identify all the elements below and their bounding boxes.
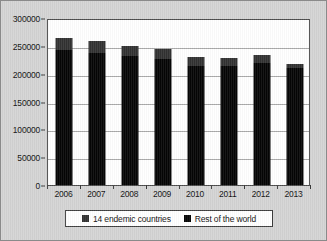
stacked-bar — [286, 64, 303, 185]
x-axis-tick-label: 2011 — [211, 189, 244, 199]
bar-segment-rest-of-the-world — [187, 66, 204, 185]
bar-segment-14-endemic-countries — [89, 41, 106, 52]
x-axis-tick-mark — [277, 185, 278, 189]
chart-figure: 050000100000150000200000250000300000 200… — [0, 0, 327, 241]
y-axis-tick-label: 100000 — [13, 125, 40, 135]
bar-slot — [212, 20, 245, 185]
bar-slot — [245, 20, 278, 185]
bar-segment-14-endemic-countries — [220, 58, 237, 66]
x-axis-tick-label: 2006 — [47, 189, 80, 199]
x-axis-tick-label: 2012 — [244, 189, 277, 199]
stacked-bar — [220, 58, 237, 185]
x-axis-tick-mark — [179, 185, 180, 189]
bar-segment-14-endemic-countries — [122, 46, 139, 57]
stacked-bar — [155, 49, 172, 185]
y-axis: 050000100000150000200000250000300000 — [1, 19, 45, 186]
bar-segment-rest-of-the-world — [253, 63, 270, 185]
chart-legend: 14 endemic countriesRest of the world — [65, 210, 273, 227]
bar-segment-rest-of-the-world — [122, 56, 139, 185]
stacked-bar — [56, 37, 73, 185]
y-axis-tick-label: 200000 — [13, 70, 40, 80]
x-axis: 20062007200820092010201120122013 — [47, 189, 310, 203]
legend-item: Rest of the world — [184, 214, 256, 224]
x-axis-tick-label: 2009 — [146, 189, 179, 199]
y-axis-tick-label: 250000 — [13, 42, 40, 52]
legend-square-swatch-icon — [184, 215, 191, 222]
stacked-bar — [122, 46, 139, 185]
y-axis-tick-label: 300000 — [13, 14, 40, 24]
bar-segment-rest-of-the-world — [155, 59, 172, 185]
legend-item: 14 endemic countries — [82, 214, 171, 224]
x-axis-tick-label: 2013 — [277, 189, 310, 199]
x-axis-tick-mark — [211, 185, 212, 189]
bar-segment-rest-of-the-world — [56, 50, 73, 185]
x-axis-tick-mark — [80, 185, 81, 189]
bar-segment-rest-of-the-world — [220, 66, 237, 185]
stacked-bar — [89, 41, 106, 185]
y-axis-tick-label: 50000 — [17, 153, 40, 163]
y-axis-tick-mark — [41, 102, 45, 103]
bar-segment-rest-of-the-world — [89, 53, 106, 185]
bar-slot — [180, 20, 213, 185]
x-axis-tick-label: 2010 — [179, 189, 212, 199]
bar-group — [48, 20, 309, 185]
x-axis-tick-mark — [244, 185, 245, 189]
y-axis-tick-mark — [41, 186, 45, 187]
x-axis-tick-mark — [146, 185, 147, 189]
x-axis-tick-mark — [113, 185, 114, 189]
stacked-bar — [187, 57, 204, 185]
bar-segment-14-endemic-countries — [187, 57, 204, 66]
bar-slot — [48, 20, 81, 185]
bar-slot — [278, 20, 311, 185]
x-axis-tick-mark — [310, 185, 311, 189]
y-axis-tick-mark — [41, 19, 45, 20]
y-axis-tick-label: 150000 — [13, 98, 40, 108]
legend-square-swatch-icon — [82, 215, 89, 222]
y-axis-tick-mark — [41, 74, 45, 75]
bar-slot — [114, 20, 147, 185]
x-axis-tick-label: 2007 — [80, 189, 113, 199]
bar-segment-14-endemic-countries — [253, 55, 270, 63]
bar-segment-rest-of-the-world — [286, 68, 303, 185]
bar-slot — [147, 20, 180, 185]
y-axis-tick-label: 0 — [35, 181, 40, 191]
bar-segment-14-endemic-countries — [155, 49, 172, 59]
bar-slot — [81, 20, 114, 185]
bar-segment-14-endemic-countries — [286, 64, 303, 68]
y-axis-tick-mark — [41, 46, 45, 47]
x-axis-tick-label: 2008 — [113, 189, 146, 199]
y-axis-tick-mark — [41, 158, 45, 159]
legend-label: Rest of the world — [195, 214, 256, 224]
stacked-bar — [253, 55, 270, 185]
plot-area — [47, 19, 310, 186]
y-axis-tick-mark — [41, 130, 45, 131]
bar-segment-14-endemic-countries — [56, 38, 73, 51]
x-axis-tick-mark — [47, 185, 48, 189]
legend-label: 14 endemic countries — [93, 214, 171, 224]
